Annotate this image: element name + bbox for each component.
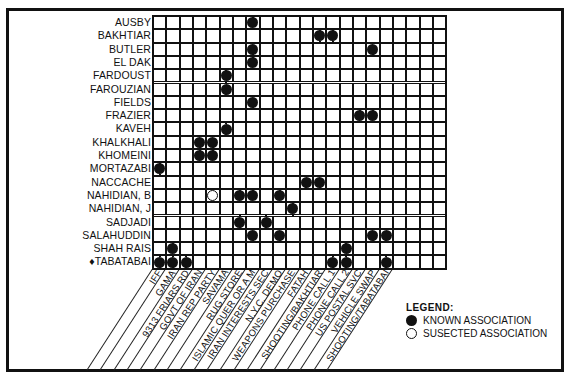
row-label: AUSBY <box>115 16 151 29</box>
row-label: FRAZIER <box>105 109 151 122</box>
row-label: BUTLER <box>109 43 151 56</box>
legend-suspected: SUSECTED ASSOCIATION <box>406 328 547 339</box>
row-label: KHOMEINI <box>98 149 151 162</box>
row-label: KHALKHALI <box>92 136 151 149</box>
grid-outline <box>152 15 447 270</box>
row-label: FAROUZIAN <box>90 83 151 96</box>
open-circle-icon <box>406 328 417 339</box>
legend: LEGEND: KNOWN ASSOCIATION SUSECTED ASSOC… <box>406 302 547 339</box>
row-label: SALAHUDDIN <box>82 229 151 242</box>
row-label: KAVEH <box>116 122 151 135</box>
filled-circle-icon <box>406 315 417 326</box>
row-label: BAKHTIAR <box>98 29 151 42</box>
legend-known: KNOWN ASSOCIATION <box>406 315 547 326</box>
row-label: NACCACHE <box>91 176 151 189</box>
legend-known-label: KNOWN ASSOCIATION <box>423 315 531 326</box>
row-label: FIELDS <box>114 96 151 109</box>
row-label: SADJADI <box>106 216 151 229</box>
row-label: ♦TABATABAI <box>89 255 151 268</box>
row-label: NAHIDIAN, J <box>89 202 151 215</box>
row-label: NAHIDIAN, B <box>87 189 151 202</box>
row-label: MORTAZABI <box>90 162 151 175</box>
row-label: EL DAK <box>113 56 151 69</box>
row-label: FARDOUST <box>93 69 151 82</box>
legend-suspected-label: SUSECTED ASSOCIATION <box>423 328 547 339</box>
legend-title: LEGEND: <box>406 302 547 313</box>
row-label: SHAH RAIS <box>94 242 152 255</box>
